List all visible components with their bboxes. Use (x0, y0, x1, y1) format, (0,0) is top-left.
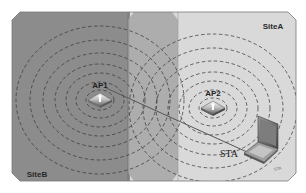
ap1-label: AP1 (92, 81, 108, 90)
sta-label: STA (220, 148, 239, 159)
site-b-label: SiteB (27, 170, 48, 179)
wlan-roaming-diagram: AP1 AP2 STA (0, 0, 306, 193)
ap2-label: AP2 (205, 89, 221, 98)
site-b-area (12, 12, 130, 181)
site-a-label: SiteA (263, 22, 284, 31)
